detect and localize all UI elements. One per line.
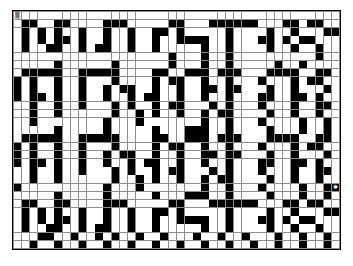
grid-cell[interactable] bbox=[95, 241, 103, 249]
grid-cell[interactable] bbox=[218, 118, 226, 126]
grid-cell[interactable] bbox=[144, 12, 152, 20]
grid-cell[interactable] bbox=[79, 200, 87, 208]
grid-cell[interactable] bbox=[120, 110, 128, 118]
grid-cell[interactable] bbox=[22, 61, 30, 69]
grid-cell[interactable] bbox=[234, 77, 242, 85]
grid-cell[interactable] bbox=[201, 12, 209, 20]
grid-cell[interactable] bbox=[291, 241, 299, 249]
grid-cell[interactable] bbox=[307, 118, 315, 126]
grid-cell[interactable] bbox=[63, 36, 71, 44]
grid-cell[interactable] bbox=[169, 118, 177, 126]
grid-cell[interactable] bbox=[54, 167, 62, 175]
grid-cell[interactable] bbox=[291, 159, 299, 167]
grid-cell[interactable] bbox=[14, 216, 22, 224]
grid-cell[interactable] bbox=[209, 110, 217, 118]
grid-cell[interactable] bbox=[30, 102, 38, 110]
grid-cell[interactable] bbox=[144, 69, 152, 77]
grid-cell[interactable] bbox=[299, 233, 307, 241]
grid-cell[interactable] bbox=[177, 143, 185, 151]
grid-cell[interactable] bbox=[160, 118, 168, 126]
grid-cell[interactable] bbox=[226, 69, 234, 77]
grid-cell[interactable] bbox=[275, 175, 283, 183]
grid-cell[interactable] bbox=[46, 134, 54, 142]
grid-cell[interactable] bbox=[185, 216, 193, 224]
grid-cell[interactable] bbox=[87, 77, 95, 85]
grid-cell[interactable] bbox=[136, 241, 144, 249]
grid-cell[interactable] bbox=[22, 28, 30, 36]
grid-cell[interactable] bbox=[144, 216, 152, 224]
grid-cell[interactable] bbox=[136, 85, 144, 93]
grid-cell[interactable] bbox=[324, 20, 332, 28]
grid-cell[interactable] bbox=[152, 53, 160, 61]
grid-cell[interactable] bbox=[120, 102, 128, 110]
grid-cell[interactable] bbox=[63, 159, 71, 167]
grid-cell[interactable]: ▒ bbox=[14, 12, 22, 20]
grid-cell[interactable] bbox=[258, 175, 266, 183]
grid-cell[interactable] bbox=[152, 12, 160, 20]
grid-cell[interactable] bbox=[242, 216, 250, 224]
grid-cell[interactable] bbox=[71, 77, 79, 85]
grid-cell[interactable] bbox=[63, 126, 71, 134]
grid-cell[interactable] bbox=[14, 200, 22, 208]
grid-cell[interactable] bbox=[332, 241, 340, 249]
grid-cell[interactable] bbox=[30, 233, 38, 241]
grid-cell[interactable] bbox=[79, 126, 87, 134]
grid-cell[interactable] bbox=[71, 36, 79, 44]
grid-cell[interactable] bbox=[169, 151, 177, 159]
grid-cell[interactable] bbox=[332, 12, 340, 20]
grid-cell[interactable] bbox=[103, 241, 111, 249]
grid-cell[interactable] bbox=[250, 143, 258, 151]
grid-cell[interactable] bbox=[128, 208, 136, 216]
grid-cell[interactable] bbox=[112, 200, 120, 208]
grid-cell[interactable] bbox=[299, 36, 307, 44]
grid-cell[interactable] bbox=[267, 216, 275, 224]
grid-cell[interactable] bbox=[193, 77, 201, 85]
grid-cell[interactable] bbox=[144, 44, 152, 52]
grid-cell[interactable] bbox=[103, 20, 111, 28]
grid-cell[interactable] bbox=[112, 102, 120, 110]
grid-cell[interactable] bbox=[275, 126, 283, 134]
grid-cell[interactable] bbox=[87, 36, 95, 44]
grid-cell[interactable] bbox=[136, 102, 144, 110]
grid-cell[interactable] bbox=[201, 134, 209, 142]
grid-cell[interactable] bbox=[144, 224, 152, 232]
grid-cell[interactable] bbox=[234, 110, 242, 118]
grid-cell[interactable] bbox=[218, 134, 226, 142]
grid-cell[interactable] bbox=[316, 224, 324, 232]
grid-cell[interactable] bbox=[307, 102, 315, 110]
grid-cell[interactable] bbox=[87, 241, 95, 249]
grid-cell[interactable] bbox=[95, 85, 103, 93]
grid-cell[interactable] bbox=[316, 36, 324, 44]
grid-cell[interactable] bbox=[14, 184, 22, 192]
grid-cell[interactable] bbox=[242, 233, 250, 241]
grid-cell[interactable] bbox=[103, 36, 111, 44]
grid-cell[interactable] bbox=[71, 110, 79, 118]
grid-cell[interactable] bbox=[316, 118, 324, 126]
grid-cell[interactable] bbox=[38, 200, 46, 208]
grid-cell[interactable] bbox=[250, 61, 258, 69]
grid-cell[interactable] bbox=[95, 134, 103, 142]
grid-cell[interactable] bbox=[152, 93, 160, 101]
grid-cell[interactable] bbox=[307, 134, 315, 142]
grid-cell[interactable] bbox=[201, 118, 209, 126]
grid-cell[interactable] bbox=[267, 175, 275, 183]
grid-cell[interactable] bbox=[299, 20, 307, 28]
grid-cell[interactable] bbox=[185, 77, 193, 85]
grid-cell[interactable] bbox=[112, 208, 120, 216]
grid-cell[interactable] bbox=[209, 36, 217, 44]
grid-cell[interactable] bbox=[54, 143, 62, 151]
grid-cell[interactable] bbox=[169, 61, 177, 69]
grid-cell[interactable] bbox=[63, 208, 71, 216]
grid-cell[interactable] bbox=[63, 93, 71, 101]
grid-cell[interactable] bbox=[332, 208, 340, 216]
grid-cell[interactable] bbox=[79, 143, 87, 151]
grid-cell[interactable] bbox=[267, 200, 275, 208]
grid-cell[interactable] bbox=[14, 224, 22, 232]
grid-cell[interactable] bbox=[275, 102, 283, 110]
grid-cell[interactable] bbox=[299, 28, 307, 36]
grid-cell[interactable] bbox=[136, 208, 144, 216]
grid-cell[interactable] bbox=[234, 208, 242, 216]
grid-cell[interactable] bbox=[242, 53, 250, 61]
grid-cell[interactable] bbox=[144, 85, 152, 93]
grid-cell[interactable] bbox=[63, 192, 71, 200]
